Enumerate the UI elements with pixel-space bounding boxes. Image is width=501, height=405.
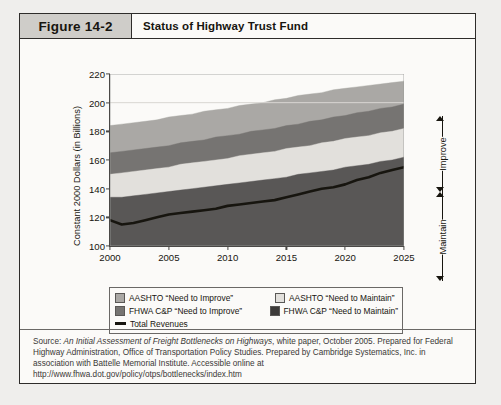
- y-tick-mark: [106, 159, 110, 160]
- figure-header: Figure 14-2 Status of Highway Trust Fund: [20, 14, 475, 39]
- y-tick-label: 180: [89, 126, 105, 137]
- legend-row: FHWA C&P “Need to Improve”FHWA C&P “Need…: [115, 304, 398, 317]
- figure-title: Status of Highway Trust Fund: [143, 20, 308, 32]
- x-tick-mark: [227, 246, 228, 250]
- x-tick-label: 2005: [158, 252, 179, 263]
- legend-color-swatch: [115, 293, 125, 303]
- chart-region: Constant 2000 Dollars (in Billions) 1001…: [20, 39, 475, 329]
- legend-label: FHWA C&P “Need to Maintain”: [284, 306, 399, 316]
- legend-label: FHWA C&P “Need to Improve”: [129, 306, 242, 316]
- legend-color-swatch: [115, 306, 125, 316]
- x-tick-mark: [168, 246, 169, 250]
- figure-title-cell: Status of Highway Trust Fund: [132, 14, 475, 38]
- bracket-improve: Improve: [432, 116, 454, 192]
- arrow-down-icon: [436, 276, 444, 281]
- chart-legend: AASHTO “Need to Improve”AASHTO “Need to …: [109, 287, 403, 334]
- figure-card: Figure 14-2 Status of Highway Trust Fund…: [19, 13, 476, 384]
- x-tick-label: 2010: [217, 252, 238, 263]
- legend-label: AASHTO “Need to Maintain”: [289, 293, 395, 303]
- plot-area: Constant 2000 Dollars (in Billions) 1001…: [109, 74, 404, 247]
- y-tick-label: 200: [89, 97, 105, 108]
- bracket-label: Improve: [436, 137, 450, 171]
- legend-color-swatch: [270, 306, 280, 316]
- y-tick-label: 120: [89, 212, 105, 223]
- arrow-up-icon: [436, 192, 444, 197]
- bracket-label: Maintain: [436, 219, 450, 254]
- x-tick-mark: [403, 246, 404, 250]
- arrow-up-icon: [436, 116, 444, 121]
- source-text: Source: An Initial Assessment of Freight…: [33, 336, 462, 380]
- legend-item: Total Revenues: [115, 319, 275, 329]
- legend-line-swatch: [115, 322, 126, 325]
- y-tick-mark: [106, 73, 110, 74]
- x-tick-mark: [109, 246, 110, 250]
- bracket-annotations: ImproveMaintain: [418, 99, 464, 247]
- y-tick-mark: [106, 217, 110, 218]
- y-tick-mark: [106, 131, 110, 132]
- y-tick-mark: [106, 188, 110, 189]
- y-tick-label: 220: [89, 69, 105, 80]
- y-axis-title: Constant 2000 Dollars (in Billions): [72, 90, 82, 262]
- legend-item: AASHTO “Need to Maintain”: [275, 293, 395, 303]
- x-tick-mark: [345, 246, 346, 250]
- legend-label: Total Revenues: [130, 319, 188, 329]
- y-tick-label: 100: [89, 241, 105, 252]
- source-note: Source: An Initial Assessment of Freight…: [20, 329, 475, 380]
- legend-item: FHWA C&P “Need to Maintain”: [270, 306, 399, 316]
- y-tick-label: 140: [89, 183, 105, 194]
- x-tick-label: 2020: [335, 252, 356, 263]
- legend-label: AASHTO “Need to Improve”: [129, 293, 233, 303]
- legend-item: FHWA C&P “Need to Improve”: [115, 306, 270, 316]
- figure-number-cell: Figure 14-2: [20, 14, 132, 38]
- legend-row: AASHTO “Need to Improve”AASHTO “Need to …: [115, 291, 398, 304]
- x-tick-label: 2000: [99, 252, 120, 263]
- legend-color-swatch: [275, 293, 285, 303]
- y-tick-mark: [106, 102, 110, 103]
- figure-number: Figure 14-2: [38, 19, 112, 34]
- x-tick-mark: [286, 246, 287, 250]
- bracket-maintain: Maintain: [432, 192, 454, 281]
- y-tick-label: 160: [89, 155, 105, 166]
- source-title: An Initial Assessment of Freight Bottlen…: [64, 337, 273, 346]
- stacked-area-plot: [110, 74, 404, 246]
- x-tick-label: 2015: [276, 252, 297, 263]
- x-tick-label: 2025: [393, 252, 414, 263]
- legend-item: AASHTO “Need to Improve”: [115, 293, 275, 303]
